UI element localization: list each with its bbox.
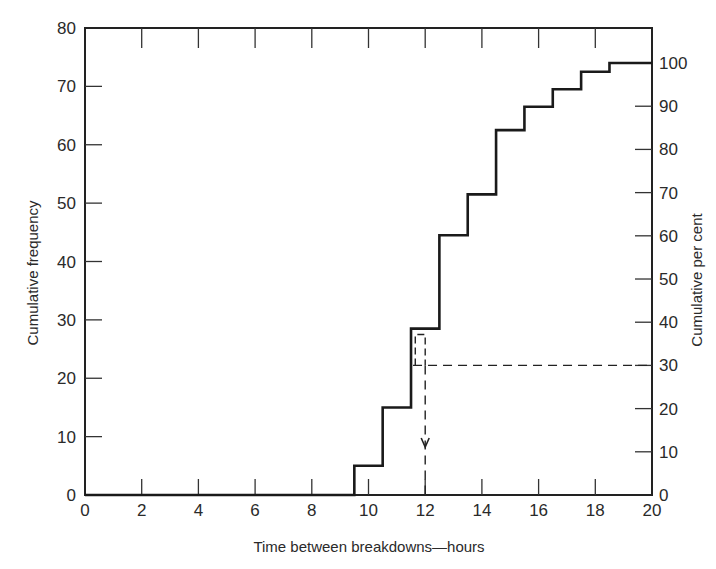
y-tick-label-left: 40 — [57, 253, 76, 272]
y-tick-label-right: 90 — [659, 97, 678, 116]
y-tick-label-left: 70 — [57, 77, 76, 96]
y-tick-label-right: 80 — [659, 140, 678, 159]
y-tick-label-right: 60 — [659, 227, 678, 246]
x-tick-label: 12 — [416, 501, 435, 520]
y-axis-title-left: Cumulative frequency — [24, 200, 41, 346]
y-tick-label-left: 0 — [67, 486, 76, 505]
y-tick-label-right: 20 — [659, 400, 678, 419]
x-tick-label: 14 — [472, 501, 491, 520]
plot-frame — [85, 28, 652, 495]
step-series — [85, 63, 652, 495]
x-tick-label: 2 — [137, 501, 146, 520]
y-tick-label-right: 30 — [659, 356, 678, 375]
plot-border — [85, 28, 652, 495]
y-tick-label-right: 70 — [659, 184, 678, 203]
x-tick-label: 10 — [359, 501, 378, 520]
y-tick-label-right: 50 — [659, 270, 678, 289]
x-tick-label: 6 — [250, 501, 259, 520]
x-tick-label: 16 — [529, 501, 548, 520]
y-tick-label-left: 30 — [57, 311, 76, 330]
y-tick-label-right: 0 — [659, 486, 668, 505]
y-tick-label-left: 50 — [57, 194, 76, 213]
x-tick-label: 4 — [194, 501, 203, 520]
cumulative-step-line — [85, 63, 652, 495]
y-tick-label-right: 100 — [659, 54, 687, 73]
cumulative-frequency-chart: 0246810121416182001020304050607080010203… — [0, 0, 716, 569]
annotations — [413, 334, 652, 495]
y-tick-label-left: 10 — [57, 428, 76, 447]
x-tick-label: 18 — [586, 501, 605, 520]
y-axis-title-right: Cumulative per cent — [688, 212, 705, 346]
y-tick-label-right: 40 — [659, 313, 678, 332]
x-axis-title: Time between breakdowns—hours — [253, 538, 484, 555]
axis-ticks — [85, 28, 652, 495]
tick-labels: 0246810121416182001020304050607080010203… — [57, 19, 687, 520]
y-tick-label-left: 60 — [57, 136, 76, 155]
x-tick-label: 8 — [307, 501, 316, 520]
dashed-bracket — [415, 334, 425, 365]
y-tick-label-left: 80 — [57, 19, 76, 38]
x-tick-label: 0 — [80, 501, 89, 520]
y-tick-label-left: 20 — [57, 369, 76, 388]
y-tick-label-right: 10 — [659, 443, 678, 462]
